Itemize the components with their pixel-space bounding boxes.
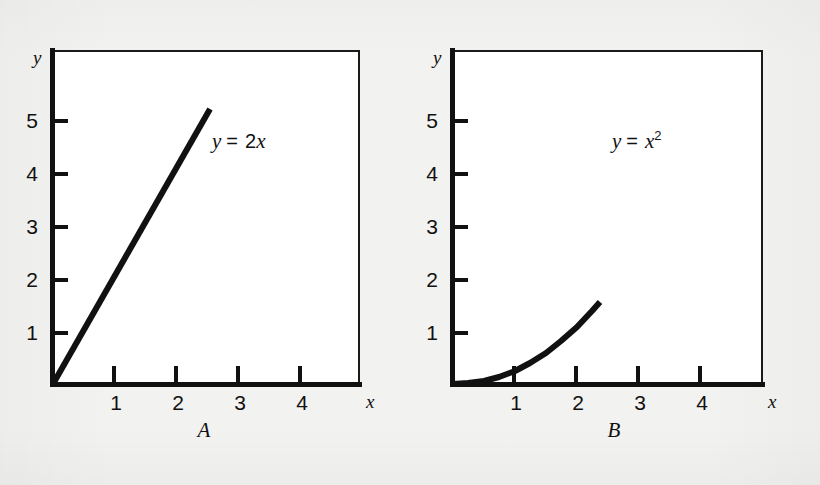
y-tick-mark-a-4 <box>55 172 68 176</box>
x-tick-label-b-1: 1 <box>503 392 529 413</box>
panel-caption-b: B <box>409 420 819 441</box>
equation-a-coefficient: 2 <box>245 130 256 152</box>
y-axis-line-a <box>50 48 55 387</box>
x-tick-label-b-4: 4 <box>689 392 715 413</box>
y-tick-label-a-1: 1 <box>12 322 38 343</box>
equation-a-variable: x <box>256 129 265 153</box>
y-axis-label-b: y <box>433 48 441 67</box>
x-axis-label-a: x <box>366 392 374 411</box>
x-tick-label-a-4: 4 <box>289 392 315 413</box>
x-tick-mark-b-3 <box>636 366 640 382</box>
y-axis-line-b <box>450 48 455 387</box>
y-tick-label-b-5: 5 <box>412 110 438 131</box>
figure-root: 1 2 3 4 5 1 2 3 4 y x y=2x A 1 <box>0 0 820 485</box>
x-axis-label-b: x <box>768 392 776 411</box>
x-axis-line-a <box>50 382 362 387</box>
y-tick-mark-a-5 <box>55 119 68 123</box>
x-tick-mark-a-3 <box>236 366 240 382</box>
equation-label-b: y=x2 <box>612 131 662 151</box>
x-tick-mark-a-4 <box>298 366 302 382</box>
x-tick-label-a-2: 2 <box>165 392 191 413</box>
x-tick-label-a-3: 3 <box>227 392 253 413</box>
plot-area-b <box>452 50 763 385</box>
y-tick-mark-a-3 <box>55 225 68 229</box>
plot-area-a <box>52 50 360 385</box>
chart-panel-b: 1 2 3 4 5 1 2 3 4 y x y=x2 B <box>410 0 820 485</box>
y-tick-label-a-3: 3 <box>12 216 38 237</box>
equation-a-operator: = <box>226 130 238 152</box>
y-tick-label-b-4: 4 <box>412 163 438 184</box>
equation-label-a: y=2x <box>212 131 265 151</box>
x-tick-mark-a-2 <box>174 366 178 382</box>
equation-a-lhs: y <box>212 129 221 153</box>
x-tick-label-b-2: 2 <box>565 392 591 413</box>
y-tick-mark-b-3 <box>455 225 468 229</box>
x-tick-mark-b-1 <box>512 366 516 382</box>
y-tick-mark-b-4 <box>455 172 468 176</box>
equation-b-lhs: y <box>612 129 621 153</box>
y-tick-label-b-2: 2 <box>412 269 438 290</box>
equation-b-operator: = <box>626 130 638 152</box>
y-axis-label-a: y <box>33 48 41 67</box>
y-tick-label-a-5: 5 <box>12 110 38 131</box>
y-tick-mark-a-1 <box>55 331 68 335</box>
x-tick-label-b-3: 3 <box>627 392 653 413</box>
x-tick-mark-a-1 <box>112 366 116 382</box>
y-tick-mark-b-1 <box>455 331 468 335</box>
chart-panel-a: 1 2 3 4 5 1 2 3 4 y x y=2x A <box>0 0 410 485</box>
x-tick-mark-b-2 <box>574 366 578 382</box>
equation-b-variable: x <box>645 129 654 153</box>
y-tick-mark-b-5 <box>455 119 468 123</box>
x-tick-mark-b-4 <box>698 366 702 382</box>
equation-b-exponent: 2 <box>654 128 661 143</box>
y-tick-label-a-4: 4 <box>12 163 38 184</box>
y-tick-label-b-1: 1 <box>412 322 438 343</box>
y-tick-mark-a-2 <box>55 278 68 282</box>
y-tick-mark-b-2 <box>455 278 468 282</box>
x-tick-label-a-1: 1 <box>103 392 129 413</box>
panel-caption-a: A <box>0 420 409 441</box>
y-tick-label-a-2: 2 <box>12 269 38 290</box>
y-tick-label-b-3: 3 <box>412 216 438 237</box>
x-axis-line-b <box>450 382 765 387</box>
